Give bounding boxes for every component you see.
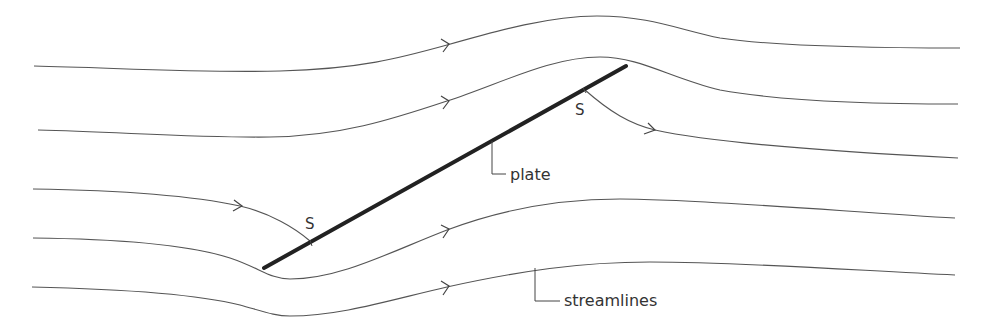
streamline-3-rear xyxy=(585,90,958,158)
flow-diagram: S S plate streamlines xyxy=(0,0,989,332)
front-stagnation-label: S xyxy=(305,215,315,233)
streamline-2 xyxy=(38,57,958,137)
streamline-3-front xyxy=(33,189,310,241)
plate-leader-line xyxy=(492,141,506,174)
streamlines-leader-line xyxy=(535,268,560,301)
streamline-4 xyxy=(33,199,955,279)
streamline-1 xyxy=(34,16,960,71)
streamline-5 xyxy=(32,262,955,316)
plate xyxy=(264,66,626,268)
streamlines-label: streamlines xyxy=(564,291,657,310)
plate-label: plate xyxy=(510,165,551,184)
rear-stagnation-label: S xyxy=(575,101,585,119)
